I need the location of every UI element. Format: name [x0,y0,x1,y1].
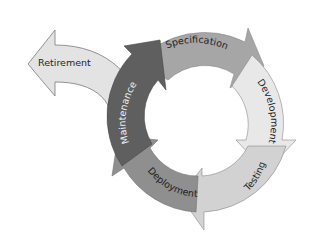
maintenance-arrow: Maintenance [107,40,166,166]
retirement-label: Retirement [38,57,91,68]
lifecycle-diagram: Retirement Specification Development Tes… [0,0,323,240]
